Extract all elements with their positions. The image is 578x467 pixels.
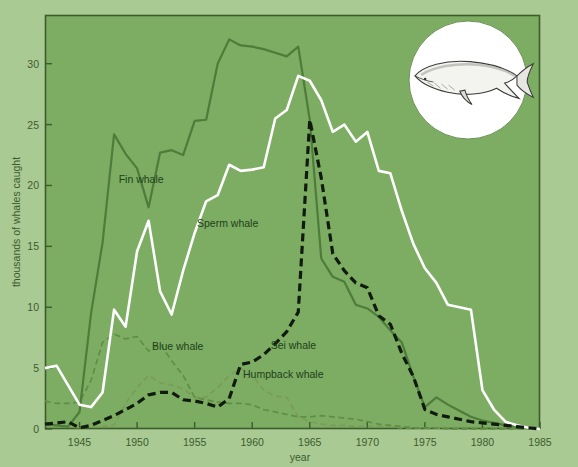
x-axis-title: year <box>290 451 311 463</box>
x-tick-label: 1970 <box>356 436 380 448</box>
series-label-humpback-whale: Humpback whale <box>243 368 324 380</box>
x-tick-label: 1980 <box>471 436 495 448</box>
x-tick-label: 1955 <box>183 436 207 448</box>
series-label-sperm-whale: Sperm whale <box>197 217 258 229</box>
x-tick-label: 1960 <box>241 436 265 448</box>
y-tick-label: 25 <box>27 119 39 131</box>
chart-canvas: 051015202530 194519501955196019651970197… <box>0 0 578 467</box>
y-tick-label: 20 <box>27 179 39 191</box>
x-tick-label: 1975 <box>413 436 437 448</box>
y-axis-title: thousands of whales caught <box>10 157 22 287</box>
x-tick-label: 1985 <box>528 436 552 448</box>
series-label-blue-whale: Blue whale <box>152 340 204 352</box>
y-tick-label: 0 <box>33 423 39 435</box>
x-tick-label: 1950 <box>125 436 149 448</box>
whale-catch-chart: 051015202530 194519501955196019651970197… <box>0 0 578 467</box>
y-tick-label: 30 <box>27 58 39 70</box>
y-tick-label: 10 <box>27 301 39 313</box>
series-label-fin-whale: Fin whale <box>119 173 164 185</box>
x-tick-label: 1945 <box>68 436 92 448</box>
y-tick-label: 5 <box>33 362 39 374</box>
series-label-sei-whale: Sei whale <box>271 339 317 351</box>
x-tick-label: 1965 <box>298 436 322 448</box>
y-tick-label: 15 <box>27 240 39 252</box>
